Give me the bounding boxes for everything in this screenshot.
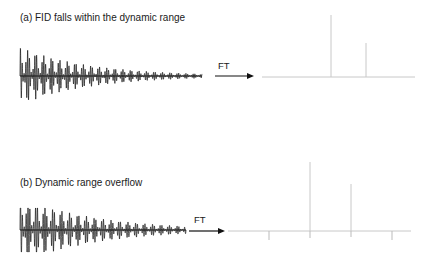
spectrum-b	[228, 162, 411, 240]
fid-signal-b	[20, 208, 186, 252]
figure-canvas	[0, 0, 431, 261]
ft-arrow-b	[189, 228, 225, 234]
ft-arrow-a	[215, 73, 254, 79]
spectrum-a	[262, 15, 415, 77]
fid-signal-a	[20, 48, 202, 99]
